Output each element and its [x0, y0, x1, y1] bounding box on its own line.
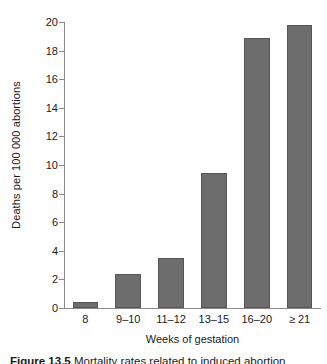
plot-area	[0, 0, 327, 364]
figure-caption: Figure 13.5 Mortality rates related to i…	[10, 355, 327, 364]
x-tick-label: 13–15	[199, 313, 230, 325]
y-tick-mark	[59, 79, 65, 80]
bar	[158, 258, 184, 308]
y-tick-mark	[59, 108, 65, 109]
y-tick-mark	[59, 279, 65, 280]
y-tick-mark	[59, 222, 65, 223]
y-tick-mark	[59, 251, 65, 252]
caption-text: Mortality rates related to induced abort…	[71, 355, 286, 364]
bar	[244, 38, 270, 308]
x-tick-label: ≥ 21	[289, 313, 310, 325]
bar	[201, 173, 227, 308]
x-tick-label: 16–20	[241, 313, 272, 325]
y-tick-mark	[59, 136, 65, 137]
y-tick-mark	[59, 194, 65, 195]
y-tick-mark	[59, 51, 65, 52]
y-tick-mark	[59, 165, 65, 166]
x-axis-title: Weeks of gestation	[64, 333, 321, 345]
x-tick-label: 9–10	[116, 313, 140, 325]
figure-container: Deaths per 100 000 abortions 02468101214…	[0, 0, 327, 364]
bar	[73, 302, 99, 308]
y-tick-mark	[59, 22, 65, 23]
caption-label: Figure 13.5	[10, 355, 71, 364]
y-tick-mark	[59, 308, 65, 309]
x-tick-label: 8	[82, 313, 88, 325]
bar	[115, 274, 141, 308]
x-tick-label: 11–12	[156, 313, 186, 325]
bar	[287, 25, 313, 308]
